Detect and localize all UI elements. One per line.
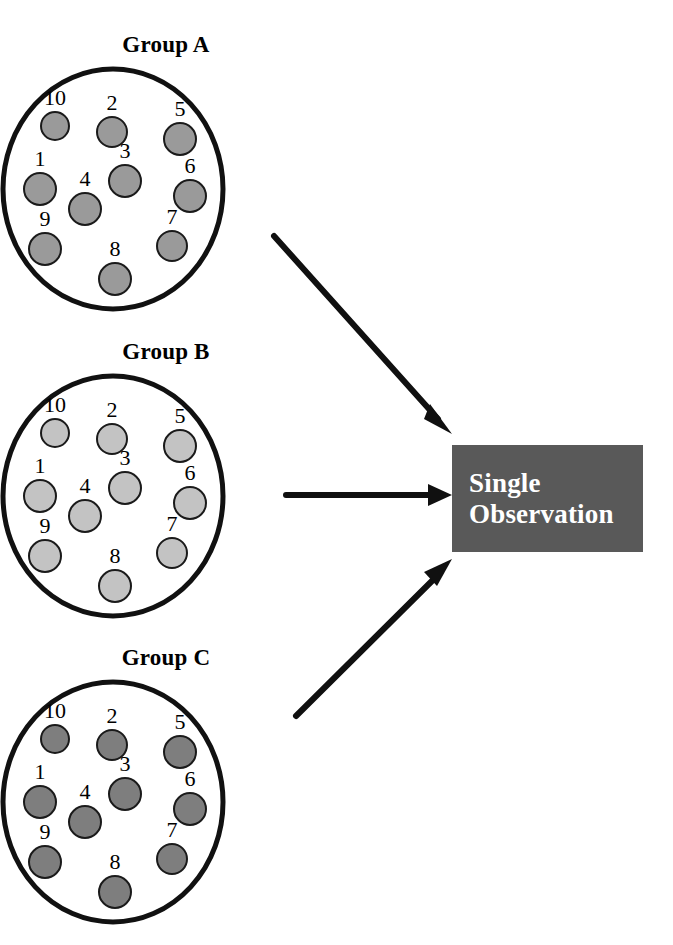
sample-dot-label: 6	[185, 768, 196, 790]
sample-dot-marker	[108, 471, 142, 505]
sample-dot-label: 5	[175, 711, 186, 733]
sample-dot-marker	[40, 418, 70, 448]
sample-dot-marker	[23, 785, 57, 819]
group-label-a: Group A	[0, 32, 340, 58]
sample-dot-marker	[28, 845, 62, 879]
sample-dot-label: 2	[107, 705, 118, 727]
group-label-c: Group C	[0, 645, 340, 671]
sample-dot-marker	[40, 111, 70, 141]
sample-dot-label: 3	[120, 753, 131, 775]
sample-dot-marker	[173, 486, 207, 520]
sample-dot-label: 8	[110, 545, 121, 567]
sample-dot-label: 5	[175, 98, 186, 120]
sample-dot-marker	[98, 569, 132, 603]
sample-dot-marker	[28, 539, 62, 573]
sample-dot-marker	[173, 179, 207, 213]
diagram-title: CROSS-SECTIONAL SAMPLING	[0, 0, 673, 8]
sample-dot-marker	[173, 792, 207, 826]
sample-dot-label: 3	[120, 140, 131, 162]
diagram-canvas: CROSS-SECTIONAL SAMPLING Group A 1025136…	[0, 0, 673, 945]
group-a-dots: 10251364978	[0, 64, 340, 314]
observation-line-1: Single	[469, 468, 541, 499]
group-circle-c: 10251364978	[0, 677, 340, 927]
sample-dot-marker	[98, 262, 132, 296]
sample-dot-marker	[163, 122, 197, 156]
diagram-title-clip: CROSS-SECTIONAL SAMPLING	[0, 0, 673, 9]
sample-dot-label: 4	[80, 781, 91, 803]
sample-dot-label: 5	[175, 405, 186, 427]
sample-dot-label: 10	[44, 87, 66, 109]
group-label-b: Group B	[0, 339, 340, 365]
group-c-dots: 10251364978	[0, 677, 340, 927]
sample-dot-label: 2	[107, 92, 118, 114]
sample-dot-label: 9	[40, 515, 51, 537]
sample-dot-marker	[40, 724, 70, 754]
sample-dot-label: 1	[35, 761, 46, 783]
sample-dot-label: 10	[44, 700, 66, 722]
sample-dot-marker	[68, 805, 102, 839]
sample-dot-marker	[23, 479, 57, 513]
sample-dot-label: 4	[80, 168, 91, 190]
sample-dot-label: 9	[40, 208, 51, 230]
sample-dot-marker	[28, 232, 62, 266]
sample-dot-label: 4	[80, 475, 91, 497]
sample-dot-marker	[163, 429, 197, 463]
group-circle-a: 10251364978	[0, 64, 340, 314]
sample-dot-label: 3	[120, 447, 131, 469]
sample-dot-marker	[108, 777, 142, 811]
sample-dot-marker	[163, 735, 197, 769]
sample-dot-label: 8	[110, 238, 121, 260]
sample-dot-label: 10	[44, 394, 66, 416]
sample-dot-label: 9	[40, 821, 51, 843]
sample-dot-label: 2	[107, 399, 118, 421]
group-label-a-text: Group A	[122, 32, 209, 58]
sample-dot-label: 7	[167, 206, 178, 228]
sample-dot-label: 6	[185, 462, 196, 484]
group-label-c-text: Group C	[122, 645, 211, 671]
sample-dot-marker	[68, 192, 102, 226]
sample-dot-marker	[108, 164, 142, 198]
sample-dot-marker	[23, 172, 57, 206]
group-b-dots: 10251364978	[0, 371, 340, 621]
sample-dot-marker	[156, 843, 188, 875]
sample-dot-label: 6	[185, 155, 196, 177]
sample-dot-marker	[98, 875, 132, 909]
sample-dot-label: 7	[167, 513, 178, 535]
sample-dot-marker	[156, 230, 188, 262]
single-observation-box: Single Observation	[452, 445, 643, 552]
sample-dot-label: 1	[35, 148, 46, 170]
sample-dot-label: 8	[110, 851, 121, 873]
sample-dot-marker	[156, 537, 188, 569]
group-circle-b: 10251364978	[0, 371, 340, 621]
sample-dot-label: 7	[167, 819, 178, 841]
group-label-b-text: Group B	[122, 339, 209, 365]
sample-dot-label: 1	[35, 455, 46, 477]
observation-line-2: Observation	[469, 499, 614, 530]
sample-dot-marker	[68, 499, 102, 533]
